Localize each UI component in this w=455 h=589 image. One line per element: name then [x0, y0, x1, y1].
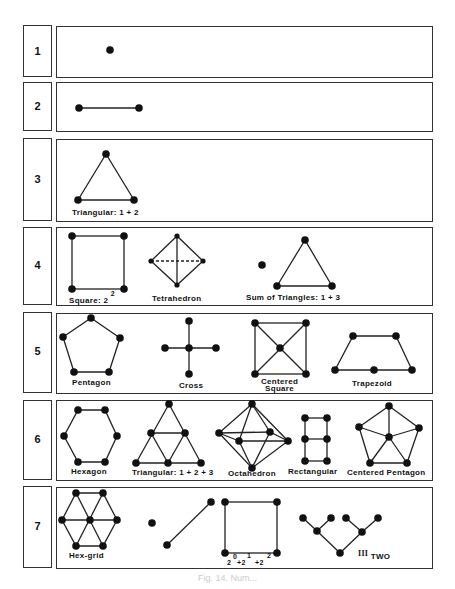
- label-triangular-1-2: Triangular: 1 + 2: [72, 208, 139, 217]
- label-hexagon: Hexagon: [71, 467, 107, 476]
- label-octahedron: Octahedron: [228, 469, 276, 478]
- label-square-exponent: 2: [111, 290, 115, 297]
- label-centered-square-line2: Square: [261, 385, 298, 392]
- label-trapezoid: Trapezoid: [352, 379, 392, 388]
- binary-plus-2b: +2: [255, 559, 264, 566]
- label-three-in-two: III TWO: [358, 549, 390, 558]
- label-square-text: Square: 2: [69, 296, 108, 305]
- label-square: Square: 2 2: [69, 293, 115, 305]
- label-binary-sum: 0 2 1 +2 2 +2: [227, 553, 279, 567]
- label-triangular-1-2-3: Triangular: 1 + 2 + 3: [132, 468, 213, 477]
- figure-caption: Fig. 14. Num...: [0, 573, 455, 583]
- label-sum-of-triangles: Sum of Triangles: 1 + 3: [246, 293, 340, 302]
- binary-base-2: 2: [227, 559, 231, 566]
- label-hex-grid: Hex-grid: [69, 551, 104, 560]
- label-tetrahedron: Tetrahedron: [152, 294, 201, 303]
- label-roman-three: III: [358, 549, 368, 558]
- label-centered-square: Centered Square: [261, 378, 298, 392]
- label-centered-pentagon: Centered Pentagon: [347, 468, 425, 477]
- binary-plus-2a: +2: [237, 559, 246, 566]
- label-two: TWO: [371, 552, 391, 561]
- binary-exp-1: 1: [247, 552, 251, 559]
- label-rectangular: Rectangular: [288, 467, 338, 476]
- binary-exp-2: 2: [267, 552, 271, 559]
- label-cross: Cross: [179, 381, 203, 390]
- label-pentagon: Pentagon: [72, 378, 111, 387]
